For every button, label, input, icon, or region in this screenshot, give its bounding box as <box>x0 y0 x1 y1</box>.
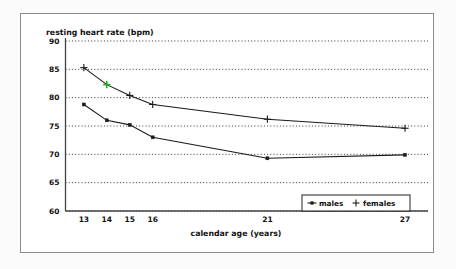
data-point-males-27 <box>404 153 407 156</box>
data-point-males-14 <box>105 119 108 122</box>
x-tick-labels-group: 131415162127 <box>79 215 411 224</box>
plot-area: 90858075706560 131415162127 malesfemales… <box>0 0 456 269</box>
y-tick-label: 90 <box>49 37 59 46</box>
y-axis-title: resting heart rate (bpm) <box>46 28 154 37</box>
legend-label: females <box>363 199 395 208</box>
y-tick-label: 70 <box>49 150 59 159</box>
x-tick-label: 13 <box>79 215 89 224</box>
data-point-males-15 <box>128 123 131 126</box>
y-tick-labels-group: 90858075706560 <box>49 37 59 216</box>
data-point-females-21 <box>264 116 271 123</box>
chart-page: 90858075706560 131415162127 malesfemales… <box>0 0 456 269</box>
x-tick-label: 27 <box>400 215 410 224</box>
axes-group <box>66 38 429 211</box>
data-point-males-21 <box>266 157 269 160</box>
data-point-females-16 <box>149 101 156 108</box>
data-point-males-13 <box>82 103 85 106</box>
y-tick-label: 60 <box>49 207 59 216</box>
y-tick-label: 80 <box>49 93 59 102</box>
data-point-females-27 <box>401 125 408 132</box>
data-point-males-16 <box>151 136 154 139</box>
x-tick-label: 15 <box>125 215 135 224</box>
y-tick-label: 65 <box>49 178 59 187</box>
line-chart: 90858075706560 131415162127 malesfemales… <box>0 0 456 269</box>
legend-label: males <box>319 199 343 208</box>
y-tick-label: 85 <box>49 65 59 74</box>
legend[interactable]: malesfemales <box>302 195 410 211</box>
x-axis-title: calendar age (years) <box>191 229 282 238</box>
x-tick-label: 21 <box>262 215 272 224</box>
series-line-males <box>84 104 405 158</box>
x-tick-label: 16 <box>147 215 157 224</box>
y-tick-label: 75 <box>49 122 59 131</box>
x-tick-label: 14 <box>102 215 112 224</box>
data-series-group <box>80 64 408 160</box>
